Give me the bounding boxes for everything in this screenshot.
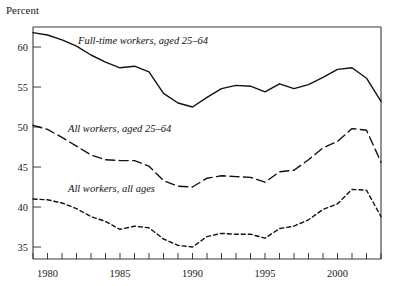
- y-tick-label-50: 50: [18, 122, 29, 133]
- annotation-all-workers-all-ages: All workers, all ages: [67, 183, 155, 194]
- y-tick-label-35: 35: [18, 242, 29, 253]
- annotation-all-workers-25-64: All workers, aged 25–64: [67, 123, 172, 134]
- chart-page: Percent 60 55 50 45 40 35 1980 1985: [0, 0, 406, 286]
- percent-line-chart: Percent 60 55 50 45 40 35 1980 1985: [0, 0, 406, 286]
- y-tick-label-55: 55: [18, 82, 29, 93]
- x-tick-label-1995: 1995: [255, 268, 276, 279]
- x-tick-label-2000: 2000: [327, 268, 348, 279]
- y-tick-label-40: 40: [18, 202, 29, 213]
- y-tick-label-45: 45: [18, 162, 29, 173]
- y-tick-label-60: 60: [18, 42, 29, 53]
- x-tick-label-1980: 1980: [37, 268, 58, 279]
- x-tick-label-1985: 1985: [110, 268, 131, 279]
- x-tick-label-1990: 1990: [182, 268, 203, 279]
- annotation-full-time-workers-25-64: Full-time workers, aged 25–64: [77, 35, 209, 46]
- y-axis-title: Percent: [6, 4, 39, 16]
